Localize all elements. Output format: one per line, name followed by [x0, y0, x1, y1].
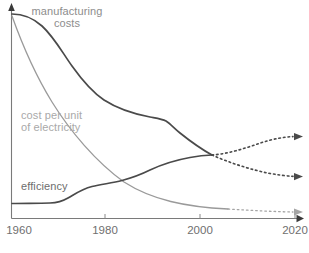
line-chart: manufacturing costs cost per unit of ele…: [0, 0, 309, 253]
x-tick-label-2020: 2020: [282, 224, 308, 236]
series-label-manufacturing-costs-line1: manufacturing: [27, 5, 107, 17]
x-tick-label-1980: 1980: [92, 224, 118, 236]
x-tick-label-1960: 1960: [6, 224, 32, 236]
series-label-cost-per-unit-line2: of electricity: [21, 121, 82, 133]
cost-per-unit-projection-arrowhead: [294, 208, 303, 215]
x-axis-arrowhead: [297, 215, 305, 222]
series-manufacturing-costs: [12, 14, 303, 180]
series-efficiency: [12, 133, 303, 204]
x-tick-label-2000: 2000: [187, 224, 213, 236]
manufacturing-costs-projection-path: [212, 155, 293, 176]
cost-per-unit-projection-path: [228, 209, 293, 212]
series-label-cost-per-unit-of-electricity: cost per unit of electricity: [21, 109, 82, 133]
series-label-efficiency: efficiency: [21, 180, 68, 192]
efficiency-projection-path: [212, 137, 293, 155]
series-label-manufacturing-costs-line2: costs: [27, 17, 107, 29]
y-axis-arrowhead: [8, 3, 15, 11]
series-label-cost-per-unit-line1: cost per unit: [21, 109, 82, 121]
series-label-efficiency-text: efficiency: [21, 180, 68, 192]
efficiency-projection-arrowhead: [294, 133, 303, 140]
series-label-manufacturing-costs: manufacturing costs: [27, 5, 107, 29]
manufacturing-costs-projection-arrowhead: [294, 173, 303, 180]
